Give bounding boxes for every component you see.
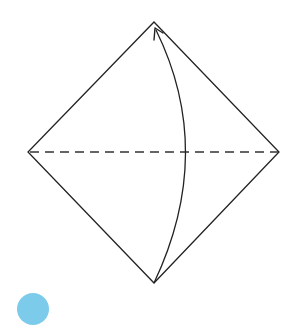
step-badge — [17, 293, 49, 325]
